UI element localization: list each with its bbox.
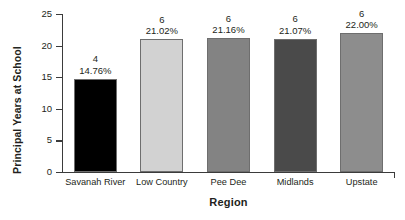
bar[interactable] <box>274 39 317 172</box>
bar-chart: Principal Years at School 0510152025 414… <box>0 0 405 220</box>
y-axis-tick-label: 0 <box>12 167 52 177</box>
bar-percent-label: 14.76% <box>62 65 129 76</box>
x-axis-line <box>62 172 395 173</box>
bar-value-label: 621.16% <box>195 13 262 35</box>
bar-slot: 621.16% <box>195 14 262 172</box>
bar[interactable] <box>207 38 250 172</box>
x-axis-tick-label: Upstate <box>319 178 405 187</box>
bar-count-label: 6 <box>195 13 262 24</box>
y-axis-tick-label: 5 <box>12 135 52 145</box>
bar[interactable] <box>340 33 383 172</box>
bar[interactable] <box>74 79 117 172</box>
bar-count-label: 4 <box>62 53 129 64</box>
bar-slot: 621.02% <box>129 14 196 172</box>
bar-percent-label: 22.00% <box>328 19 395 30</box>
y-axis-tick <box>56 172 62 173</box>
y-axis-tick-label: 20 <box>12 41 52 51</box>
bar-percent-label: 21.02% <box>129 25 196 36</box>
bar-slot: 622.00% <box>328 14 395 172</box>
bar-count-label: 6 <box>129 14 196 25</box>
bar-count-label: 6 <box>262 13 329 24</box>
y-axis-tick-label: 15 <box>12 72 52 82</box>
bar[interactable] <box>140 39 183 172</box>
bar-slot: 621.07% <box>262 14 329 172</box>
bar-slot: 414.76% <box>62 14 129 172</box>
y-axis-tick-label: 25 <box>12 9 52 19</box>
bar-value-label: 622.00% <box>328 8 395 30</box>
x-axis-title: Region <box>62 196 395 208</box>
bar-value-label: 621.02% <box>129 14 196 36</box>
bar-value-label: 621.07% <box>262 13 329 35</box>
bar-count-label: 6 <box>328 8 395 19</box>
bar-percent-label: 21.16% <box>195 24 262 35</box>
bar-value-label: 414.76% <box>62 53 129 75</box>
plot-area: 414.76%621.02%621.16%621.07%622.00% <box>62 14 395 172</box>
y-axis-tick-label: 10 <box>12 104 52 114</box>
bar-percent-label: 21.07% <box>262 25 329 36</box>
